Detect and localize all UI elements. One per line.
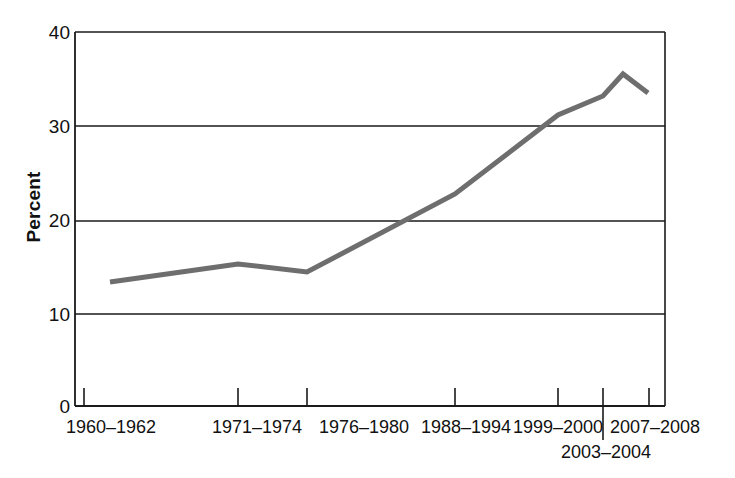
x-tick-label-1976-1980: 1976–1980 [319, 418, 409, 436]
x-axis-tick-labels: 1960–1962 1971–1974 1976–1980 1988–1994 … [0, 0, 735, 478]
x-tick-label-1971-1974: 1971–1974 [212, 418, 302, 436]
x-tick-label-2007-2008: 2007–2008 [610, 418, 700, 436]
x-tick-label-1988-1994: 1988–1994 [421, 418, 511, 436]
x-tick-label-1999-2000: 1999–2000 [513, 418, 603, 436]
x-tick-label-1960-1962: 1960–1962 [66, 418, 156, 436]
x-tick-label-2003-2004: 2003–2004 [561, 443, 651, 461]
line-chart: Percent 40 30 20 10 0 1960–1962 1971–197… [0, 0, 735, 478]
